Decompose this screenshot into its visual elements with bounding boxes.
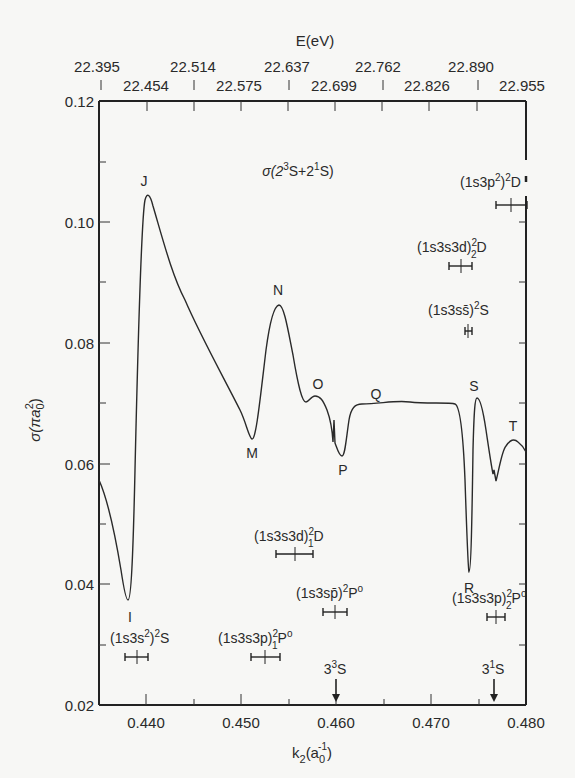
res-label-1s3s2-2S: (1s3s2)2S: [110, 628, 169, 646]
label-O: O: [313, 376, 324, 392]
x-axis-ticks: [146, 694, 479, 705]
errorbar-1s3s3p-1P: [251, 650, 280, 664]
res-label-1s3sp-P: (1s3sp̄)2Po: [296, 583, 364, 601]
x-tick-0.460: 0.460: [317, 714, 355, 731]
svg-text:33S: 33S: [324, 659, 347, 677]
top-tick-upper: 22.762: [355, 58, 401, 75]
y-axis-title: σ(πa02): [23, 398, 46, 442]
y-axis-ticks: [99, 162, 526, 645]
y-tick-0.12: 0.12: [65, 93, 94, 110]
plot-title: σ(23S+21S): [262, 161, 333, 179]
y-tick-0.08: 0.08: [65, 335, 94, 352]
top-tick-lower: 22.826: [404, 77, 450, 94]
top-axis-title: E(eV): [296, 32, 334, 49]
res-label-1s3s3p-2P: (1s3s3p)22Po: [452, 588, 527, 611]
top-tick-upper: 22.514: [170, 58, 216, 75]
x-tick-0.450: 0.450: [222, 714, 260, 731]
label-P: P: [338, 462, 347, 478]
y-tick-0.04: 0.04: [65, 576, 94, 593]
errorbar-1s3s3p-2P: [487, 610, 505, 624]
plot-frame: [99, 101, 526, 705]
errorbar-1s3sp-P: [323, 605, 347, 619]
top-tick-upper: 22.637: [264, 58, 310, 75]
label-M: M: [246, 445, 258, 461]
x-tick-0.470: 0.470: [412, 714, 450, 731]
label-T: T: [509, 418, 518, 434]
x-tick-0.480: 0.480: [507, 714, 545, 731]
label-S: S: [469, 378, 478, 394]
top-tick-upper: 22.890: [448, 58, 494, 75]
errorbar-1s3ss-S: [465, 324, 472, 338]
errorbar-1s3s2-2S: [125, 650, 148, 664]
threshold-3-3S: 33S: [324, 659, 347, 702]
y-tick-0.06: 0.06: [65, 456, 94, 473]
threshold-3-1S: 31S: [482, 659, 505, 702]
top-tick-lower: 22.575: [216, 77, 262, 94]
x-tick-labels: 0.440 0.450 0.460 0.470 0.480: [127, 714, 545, 731]
top-tick-lower: 22.699: [311, 77, 357, 94]
top-tick-labels: 22.395 22.514 22.637 22.762 22.890 22.45…: [74, 58, 545, 94]
arrow-down-icon: [332, 694, 340, 702]
res-label-1s3ss-S: (1s3ss̄)2S: [428, 300, 489, 318]
cross-section-chart: 0.12 0.10 0.08 0.06 0.04 0.02 0.440 0.45…: [0, 0, 575, 778]
top-tick-upper: 22.395: [74, 58, 120, 75]
label-Q: Q: [371, 386, 382, 402]
res-label-1s3p2-D: (1s3p2)2D: [460, 172, 521, 190]
svg-text:31S: 31S: [482, 659, 505, 677]
y-tick-0.02: 0.02: [65, 697, 94, 714]
arrow-down-icon: [490, 694, 498, 702]
res-label-1s3s3d-2D: (1s3s3d)22D: [417, 237, 487, 260]
threshold-markers: 33S 31S: [324, 659, 505, 702]
label-I: I: [128, 609, 132, 625]
y-tick-labels: 0.12 0.10 0.08 0.06 0.04 0.02: [65, 93, 94, 714]
x-axis-title: k2(a0-1): [292, 741, 332, 765]
label-N: N: [273, 282, 283, 298]
errorbar-1s3p2-D: [496, 198, 527, 212]
x-tick-0.440: 0.440: [127, 714, 165, 731]
top-tick-lower: 22.955: [499, 77, 545, 94]
label-J: J: [141, 173, 148, 189]
top-tick-lower: 22.454: [123, 77, 169, 94]
errorbar-1s3s3d-2D: [449, 259, 472, 273]
errorbar-1s3s3d-1D: [276, 547, 313, 561]
y-tick-0.10: 0.10: [65, 214, 94, 231]
res-label-1s3s3d-1D: (1s3s3d)21D: [254, 526, 324, 549]
res-label-1s3s3p-1P: (1s3s3p)21Po: [218, 628, 293, 651]
